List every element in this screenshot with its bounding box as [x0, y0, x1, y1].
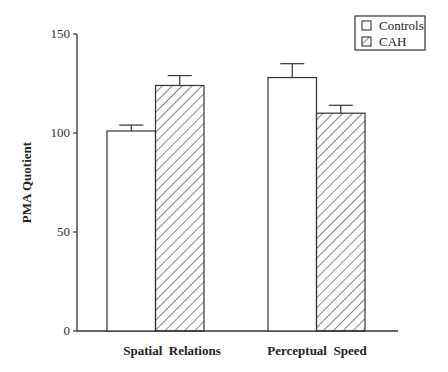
legend-label: Controls — [379, 18, 424, 33]
labels: Spatial RelationsPerceptual Speed — [123, 343, 367, 358]
bars — [107, 64, 365, 331]
y-tick-label: 100 — [51, 125, 71, 140]
legend-swatch — [362, 37, 371, 46]
legend: ControlsCAH — [355, 16, 425, 50]
bar-controls — [268, 78, 317, 331]
category-label: Spatial Relations — [123, 343, 221, 358]
y-tick-label: 50 — [57, 224, 70, 239]
bar-cah — [156, 85, 205, 331]
bar-chart: 050100150PMA Quotient Spatial RelationsP… — [0, 0, 448, 372]
bar-controls — [107, 131, 156, 331]
y-axis-label: PMA Quotient — [19, 141, 34, 223]
y-tick-label: 150 — [51, 26, 71, 41]
legend-swatch — [362, 21, 371, 30]
y-tick-label: 0 — [64, 323, 71, 338]
legend-label: CAH — [379, 34, 406, 49]
bar-cah — [317, 113, 366, 331]
category-label: Perceptual Speed — [267, 343, 367, 358]
